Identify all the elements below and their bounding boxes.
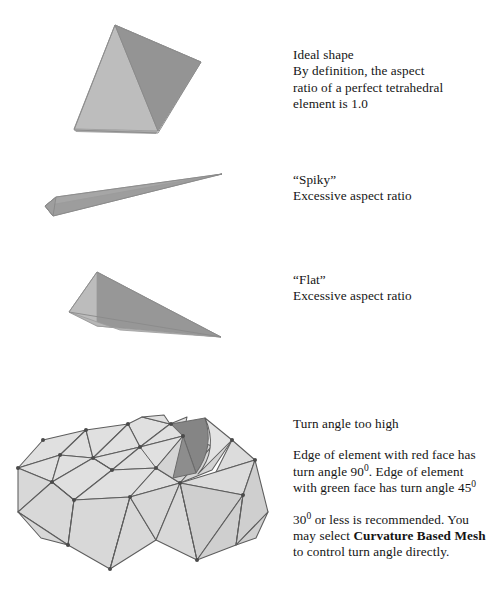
mesh-node bbox=[230, 438, 234, 442]
mesh-node bbox=[84, 428, 88, 432]
mesh-node bbox=[195, 558, 199, 562]
mesh-node bbox=[154, 466, 158, 470]
caption-turn-angle: Turn angle too high Edge of element with… bbox=[293, 416, 489, 561]
turn-para2-seg2: or less is recommended. bbox=[311, 512, 444, 527]
ideal-tetrahedron bbox=[74, 25, 201, 134]
caption-ideal-shape: Ideal shape By definition, the aspect ra… bbox=[293, 47, 489, 113]
turn-para1-seg2: turn angle 90 bbox=[293, 464, 364, 479]
turn-para2-bold-2: Mesh bbox=[454, 528, 485, 543]
flat-tetrahedron bbox=[69, 272, 221, 337]
caption-ideal-line-2: By definition, the aspect bbox=[293, 63, 489, 79]
mesh-node bbox=[126, 422, 130, 426]
turn-para2-seg1: 30 bbox=[293, 512, 306, 527]
mesh-node bbox=[16, 466, 20, 470]
caption-spiky: “Spiky” Excessive aspect ratio bbox=[293, 172, 489, 205]
mesh-node bbox=[169, 422, 173, 426]
turn-para1-seg1: Edge of element with red face has bbox=[293, 447, 476, 462]
mesh-node bbox=[138, 445, 142, 449]
caption-turn-heading: Turn angle too high bbox=[293, 416, 489, 432]
mesh-node bbox=[91, 456, 95, 460]
caption-spiky-line-1: “Spiky” bbox=[293, 172, 489, 188]
mesh-node bbox=[241, 493, 245, 497]
mesh-node bbox=[66, 543, 70, 547]
turn-para1-sup2: 0 bbox=[471, 479, 476, 489]
caption-ideal-line-4: element is 1.0 bbox=[293, 96, 489, 112]
mesh-node bbox=[128, 495, 132, 499]
caption-turn-para-1: Edge of element with red face has turn a… bbox=[293, 447, 489, 496]
mesh-node bbox=[72, 498, 76, 502]
turn-para1-seg4: with green face has turn angle 45 bbox=[293, 480, 471, 495]
mesh-node bbox=[110, 468, 114, 472]
turn-para2-bold-1: Curvature Based bbox=[353, 528, 451, 543]
caption-flat-line-2: Excessive aspect ratio bbox=[293, 288, 489, 304]
spiky-tetrahedron bbox=[45, 174, 222, 216]
mesh-node bbox=[58, 453, 62, 457]
figure-page: Ideal shape By definition, the aspect ra… bbox=[0, 0, 492, 599]
caption-turn-para-2: 300 or less is recommended. You may sele… bbox=[293, 512, 489, 561]
caption-flat-line-1: “Flat” bbox=[293, 272, 489, 288]
caption-spiky-line-2: Excessive aspect ratio bbox=[293, 188, 489, 204]
turn-para2-seg4: to control turn angle bbox=[293, 544, 402, 559]
mesh-node bbox=[108, 567, 112, 571]
mesh-node bbox=[50, 480, 54, 484]
mesh-block bbox=[16, 415, 268, 571]
caption-flat: “Flat” Excessive aspect ratio bbox=[293, 272, 489, 305]
caption-ideal-line-1: Ideal shape bbox=[293, 47, 489, 63]
mesh-node bbox=[178, 481, 182, 485]
mesh-node bbox=[253, 458, 257, 462]
mesh-node bbox=[181, 434, 185, 438]
turn-para2-seg5: directly. bbox=[406, 544, 450, 559]
mesh-node bbox=[41, 438, 45, 442]
caption-ideal-line-3: ratio of a perfect tetrahedral bbox=[293, 80, 489, 96]
turn-para1-seg3: . Edge of element bbox=[369, 464, 464, 479]
